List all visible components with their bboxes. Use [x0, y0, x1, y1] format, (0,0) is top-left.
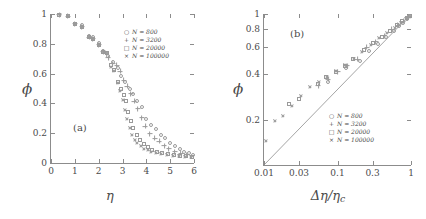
x-axis-tick-label: 0.01 — [254, 169, 274, 178]
data-point-circle — [87, 34, 91, 38]
data-point-square — [112, 68, 116, 72]
data-point-cross — [130, 133, 134, 137]
data-point-cross — [91, 36, 95, 40]
data-point-square — [142, 142, 146, 146]
data-point-circle — [106, 54, 110, 58]
data-point-plus — [184, 152, 189, 157]
data-point-circle — [97, 41, 101, 45]
data-point-square — [160, 151, 164, 155]
data-point-circle — [66, 14, 70, 18]
data-point-square — [155, 150, 159, 154]
data-point-cross — [132, 138, 136, 142]
data-point-circle — [101, 49, 105, 53]
data-point-cross — [116, 81, 120, 85]
data-point-cross — [142, 147, 146, 151]
y-axis-tick — [51, 163, 55, 164]
x-axis-tick-label: 0.3 — [365, 169, 379, 178]
data-point-circle — [73, 22, 77, 26]
data-point-square — [116, 80, 120, 84]
data-point-square — [190, 155, 194, 159]
data-point-square — [73, 22, 77, 26]
x-axis-tick-label: 1 — [72, 167, 78, 176]
x-axis-tick — [75, 159, 76, 163]
data-point-square — [135, 133, 139, 137]
data-point-circle — [159, 133, 163, 137]
data-point-square — [126, 110, 130, 114]
y-axis-tick-label: 0.8 — [33, 39, 47, 48]
data-point-circle — [182, 150, 186, 154]
y-axis-tick-right — [407, 74, 411, 75]
data-point-square — [150, 148, 154, 152]
panel-b: ϕ Δη/ηc (b) ○N = 800+N = 3200□N = 20000×… — [213, 0, 426, 219]
data-point-plus — [65, 14, 70, 19]
x-axis-tick — [373, 161, 374, 165]
legend-row: ×N = 100000 — [326, 136, 374, 144]
data-point-cross — [125, 117, 129, 121]
y-axis-tick-label: 0.6 — [33, 69, 47, 78]
data-point-square — [122, 93, 126, 97]
y-axis-tick-label: 0.2 — [33, 129, 47, 138]
data-point-circle — [149, 123, 153, 127]
data-point-plus — [132, 99, 137, 104]
data-point-circle — [144, 117, 148, 121]
x-axis-tick-top — [338, 14, 339, 18]
data-point-circle — [178, 147, 182, 151]
figure-container: ϕ η (a) ○N = 800+N = 3200□N = 20000×N = … — [0, 0, 426, 219]
panel-b-xlabel: Δη/ηc — [288, 188, 368, 204]
data-point-plus — [152, 136, 157, 141]
data-point-square — [105, 51, 109, 55]
data-point-circle — [111, 60, 115, 64]
data-point-square — [119, 87, 123, 91]
data-point-plus — [101, 49, 106, 54]
data-point-circle — [123, 80, 127, 84]
data-point-cross — [105, 51, 109, 55]
data-point-plus — [135, 106, 140, 111]
data-point-plus — [110, 61, 115, 66]
x-axis-tick — [411, 161, 412, 165]
data-point-square — [138, 138, 142, 142]
data-point-cross — [188, 155, 192, 159]
x-axis-tick — [123, 159, 124, 163]
y-axis-tick-right — [190, 74, 194, 75]
y-axis-tick — [51, 74, 55, 75]
x-axis-tick-label: 1 — [408, 169, 414, 178]
data-point-circle — [135, 99, 139, 103]
panel-a-ylabel: ϕ — [22, 80, 32, 98]
y-axis-tick-label: 0.2 — [246, 115, 260, 124]
data-point-plus — [178, 151, 183, 156]
data-point-square — [124, 99, 128, 103]
data-point-square — [129, 119, 133, 123]
data-point-square — [91, 37, 95, 41]
x-axis-tick-top — [51, 14, 52, 18]
x-axis-tick-label: 2 — [96, 167, 102, 176]
legend-label: N = 100000 — [132, 51, 169, 60]
data-point-cross — [65, 14, 69, 18]
panel-b-xlabel-sub: c — [340, 193, 345, 204]
data-point-circle — [116, 66, 120, 70]
panel-b-ylabel: ϕ — [233, 80, 243, 98]
data-point-cross — [73, 21, 77, 25]
y-axis-tick — [51, 133, 55, 134]
data-point-square — [80, 25, 84, 29]
x-axis-tick-top — [264, 14, 265, 18]
data-point-cross — [182, 154, 186, 158]
data-point-cross — [135, 141, 139, 145]
data-point-cross — [118, 89, 122, 93]
x-axis-tick-label: 0 — [48, 167, 54, 176]
data-point-plus — [128, 91, 133, 96]
data-point-cross — [154, 151, 158, 155]
panel-a-legend: ○N = 800+N = 3200□N = 20000×N = 100000 — [121, 28, 169, 60]
data-point-circle — [140, 105, 144, 109]
y-axis-tick — [264, 29, 268, 30]
data-point-plus — [166, 146, 171, 151]
x-axis-tick — [264, 161, 265, 165]
x-axis-tick-label: 6 — [191, 167, 197, 176]
data-point-plus — [96, 42, 101, 47]
data-point-cross — [108, 65, 112, 69]
data-point-square — [172, 153, 176, 157]
y-axis-tick-label: 0.8 — [246, 24, 260, 33]
data-point-square — [66, 14, 70, 18]
data-point-plus — [121, 78, 126, 83]
data-point-cross — [120, 97, 124, 101]
y-axis-tick-right — [190, 103, 194, 104]
